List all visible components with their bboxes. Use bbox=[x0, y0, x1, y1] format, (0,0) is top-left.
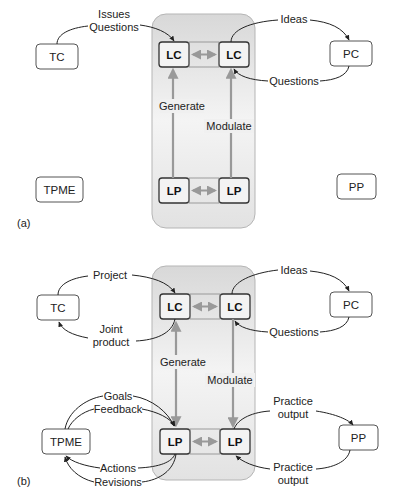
lp-to-tpme-revisions-arrow bbox=[65, 457, 94, 482]
practice-output-bottom-line2: output bbox=[278, 474, 309, 486]
tc-node[interactable]: TC bbox=[37, 295, 79, 320]
lc-right-node[interactable]: LC bbox=[220, 294, 250, 319]
lc-right-label: LC bbox=[226, 49, 241, 61]
questions-pc-label: Questions bbox=[269, 75, 319, 87]
lc-to-tc-arrow bbox=[59, 322, 88, 338]
tc-node[interactable]: TC bbox=[36, 44, 78, 69]
panel-b: LC LC LP LP Generate Modulate TC bbox=[17, 264, 378, 488]
tpme-label: TPME bbox=[44, 184, 76, 196]
modulate-label: Modulate bbox=[206, 120, 251, 132]
lp-right-node[interactable]: LP bbox=[219, 178, 249, 203]
questions-label: Questions bbox=[89, 21, 139, 33]
pc-label: PC bbox=[343, 299, 359, 311]
practice-output-top-line1: Practice bbox=[273, 395, 313, 407]
lc-right-node[interactable]: LC bbox=[219, 42, 249, 67]
lc-to-pc-arrow bbox=[310, 20, 349, 40]
pc-label: PC bbox=[343, 48, 359, 60]
lp-to-tpme-actions-arrow bbox=[66, 456, 100, 468]
feedback-label: Feedback bbox=[94, 403, 143, 415]
tpme-label: TPME bbox=[50, 436, 82, 448]
goals-label: Goals bbox=[104, 390, 133, 402]
panel-a: LC LC LP LP Generate Modulate TC bbox=[17, 8, 376, 229]
lc-left-label: LC bbox=[167, 301, 182, 313]
tc-issues-curve-start bbox=[57, 26, 88, 44]
pc-node[interactable]: PC bbox=[330, 292, 372, 317]
lp-right-label: LP bbox=[227, 185, 242, 197]
lp-left-label: LP bbox=[168, 436, 183, 448]
panel-b-label: (b) bbox=[17, 475, 30, 487]
modulate-label: Modulate bbox=[207, 374, 252, 386]
lc-right-label: LC bbox=[227, 301, 242, 313]
pp-node[interactable]: PP bbox=[339, 425, 378, 450]
project-curve-start bbox=[58, 276, 88, 295]
tpme-node[interactable]: TPME bbox=[42, 429, 90, 454]
ideas-label: Ideas bbox=[281, 264, 308, 276]
pp-label: PP bbox=[351, 432, 367, 444]
joint-label: Joint bbox=[99, 323, 122, 335]
lc-left-node[interactable]: LC bbox=[159, 42, 189, 67]
lc-left-label: LC bbox=[166, 49, 181, 61]
generate-label: Generate bbox=[160, 356, 206, 368]
questions-pc-label: Questions bbox=[269, 326, 319, 338]
tc-label: TC bbox=[49, 51, 64, 63]
lc-left-node[interactable]: LC bbox=[160, 294, 190, 319]
pp-label: PP bbox=[349, 181, 365, 193]
actions-label: Actions bbox=[100, 462, 137, 474]
pp-practice-curve-start bbox=[316, 450, 350, 469]
lp-to-pp-arrow bbox=[316, 411, 353, 425]
ideas-label: Ideas bbox=[281, 13, 308, 25]
tpme-node[interactable]: TPME bbox=[36, 177, 83, 202]
practice-output-bottom-line1: Practice bbox=[273, 461, 313, 473]
lp-left-node[interactable]: LP bbox=[160, 429, 190, 454]
product-label: product bbox=[93, 336, 130, 348]
lp-right-label: LP bbox=[228, 436, 243, 448]
diagram-canvas: LC LC LP LP Generate Modulate TC bbox=[0, 0, 394, 504]
lp-left-node[interactable]: LP bbox=[159, 178, 189, 203]
feedback-curve-start bbox=[68, 409, 94, 429]
revisions-label: Revisions bbox=[94, 476, 142, 488]
tc-label: TC bbox=[50, 302, 65, 314]
generate-label: Generate bbox=[159, 100, 205, 112]
pc-questions-curve-start bbox=[320, 66, 349, 81]
pc-questions-curve-start bbox=[320, 317, 349, 332]
lc-to-pc-arrow bbox=[310, 271, 349, 291]
project-label: Project bbox=[93, 269, 127, 281]
panel-a-label: (a) bbox=[17, 217, 30, 229]
lp-left-label: LP bbox=[167, 185, 182, 197]
issues-label: Issues bbox=[98, 8, 130, 20]
lp-right-node[interactable]: LP bbox=[220, 429, 250, 454]
pp-node[interactable]: PP bbox=[337, 174, 376, 199]
pc-node[interactable]: PC bbox=[330, 41, 372, 66]
practice-output-top-line2: output bbox=[278, 408, 309, 420]
